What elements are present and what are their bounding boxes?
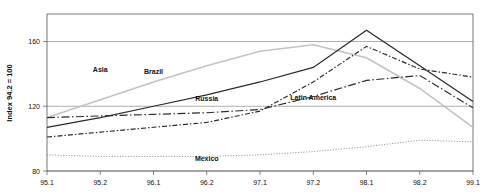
x-tick-label-98.1: 98.1 [360,179,374,186]
series-label-latin-america: Latin America [290,94,336,101]
x-tick-label-98.2: 98.2 [413,179,427,186]
x-tick-label-95.1: 95.1 [40,179,54,186]
x-tick-label-97.2: 97.2 [306,179,320,186]
series-label-brazil: Brazil [144,68,163,75]
x-tick-labels-group: 95.195.296.196.297.197.298.198.299.1 [40,179,480,186]
chart-figure: 80120160 95.195.296.196.297.197.298.198.… [0,0,491,192]
x-tick-label-99.1: 99.1 [466,179,480,186]
x-tick-label-96.1: 96.1 [147,179,161,186]
series-label-russia: Russia [195,95,218,102]
y-tick-label-80: 80 [32,168,40,175]
series-label-mexico: Mexico [195,155,219,162]
y-tick-label-160: 160 [28,38,40,45]
y-axis-title: Index 94.2 = 100 [5,64,14,121]
x-tick-label-96.2: 96.2 [200,179,214,186]
y-tick-label-120: 120 [28,103,40,110]
line-chart-svg: 80120160 95.195.296.196.297.197.298.198.… [0,0,491,192]
x-tick-label-95.2: 95.2 [93,179,107,186]
series-label-asia: Asia [93,66,108,73]
chart-background [0,0,491,192]
x-tick-label-97.1: 97.1 [253,179,267,186]
